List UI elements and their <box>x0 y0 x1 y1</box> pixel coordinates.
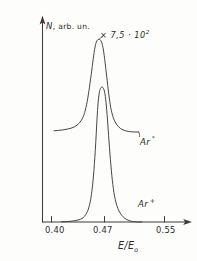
x-axis-label-text: E/E <box>118 240 134 251</box>
curve-label-neutral-text: Ar <box>140 137 150 147</box>
curve-neutral-argon <box>54 39 139 132</box>
y-axis-units: , arb. un. <box>53 22 90 31</box>
x-tick-label-1: 0.47 <box>93 226 112 234</box>
y-axis-group <box>40 16 46 223</box>
peak-scale-text: × 7,5 · 10 <box>100 30 146 40</box>
y-axis-symbol: N <box>46 21 53 31</box>
plot-canvas: .ink { fill: none; stroke: #3c3c3c; stro… <box>0 0 197 261</box>
curve-label-neutral-argon: Ar° <box>140 136 155 146</box>
x-tick-label-2: 0.55 <box>156 226 175 234</box>
y-axis-label: N, arb. un. <box>46 22 90 31</box>
x-axis-label-subscript: o <box>134 246 138 254</box>
curve-label-ion-charge: + <box>150 197 156 205</box>
curve-ion-argon <box>62 87 143 222</box>
curve-label-ion-argon: Ar+ <box>138 198 155 208</box>
curve-label-neutral-charge: ° <box>152 135 156 143</box>
x-axis-label: E/Eo <box>118 241 138 253</box>
figure-root: .ink { fill: none; stroke: #3c3c3c; stro… <box>0 0 197 261</box>
peak-scale-exponent: 2 <box>146 29 150 35</box>
x-tick-label-0: 0.40 <box>45 226 64 234</box>
peak-scale-annotation: × 7,5 · 102 <box>100 30 150 39</box>
curve-label-ion-text: Ar <box>138 199 148 209</box>
